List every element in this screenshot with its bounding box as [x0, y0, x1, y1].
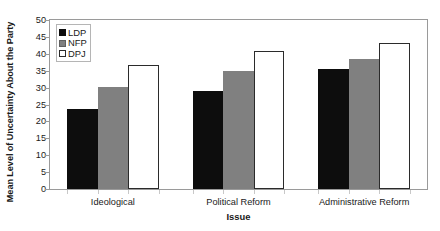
y-tick-label: 20	[20, 116, 46, 126]
legend-item-dpj: DPJ	[59, 49, 87, 59]
legend-item-ldp: LDP	[59, 28, 87, 38]
x-tick-mark	[193, 190, 194, 194]
x-tick-mark	[410, 190, 411, 194]
x-tick-mark	[159, 190, 160, 194]
y-tick-mark	[45, 121, 49, 122]
plot-area	[50, 20, 427, 189]
y-tick-label: 10	[20, 150, 46, 160]
legend-item-nfp: NFP	[59, 38, 87, 48]
x-tick-mark	[223, 190, 224, 194]
y-tick-mark	[45, 37, 49, 38]
bar-ldp-0	[67, 109, 98, 189]
y-tick-mark	[45, 20, 49, 21]
x-category-label: Administrative Reform	[274, 197, 440, 208]
y-axis-title: Mean Level of Uncertainty About the Part…	[3, 14, 17, 210]
y-tick-mark	[45, 138, 49, 139]
y-axis-tick-labels: 05101520253035404550	[20, 12, 46, 194]
y-tick-label: 0	[20, 184, 46, 194]
legend-label: NFP	[68, 38, 87, 48]
legend-swatch-icon	[59, 29, 66, 36]
bar-ldp-1	[193, 91, 224, 189]
x-axis-title: Issue	[49, 211, 428, 222]
x-tick-mark	[128, 190, 129, 194]
y-tick-label: 45	[20, 32, 46, 42]
y-tick-mark	[45, 172, 49, 173]
y-tick-mark	[45, 155, 49, 156]
x-tick-mark	[284, 190, 285, 194]
y-tick-mark	[45, 71, 49, 72]
y-tick-mark	[45, 189, 49, 190]
legend-swatch-icon	[59, 50, 66, 57]
y-tick-mark	[45, 105, 49, 106]
bar-nfp-0	[98, 87, 129, 189]
bar-dpj-1	[254, 51, 285, 189]
y-tick-label: 30	[20, 83, 46, 93]
legend-label: LDP	[68, 28, 86, 38]
bar-ldp-2	[318, 69, 349, 189]
y-tick-label: 35	[20, 66, 46, 76]
bar-nfp-1	[223, 71, 254, 189]
y-tick-label: 25	[20, 100, 46, 110]
bar-nfp-2	[349, 59, 380, 189]
x-tick-mark	[67, 190, 68, 194]
x-tick-mark	[98, 190, 99, 194]
bar-dpj-0	[128, 65, 159, 189]
bar-dpj-2	[379, 43, 410, 189]
y-tick-label: 50	[20, 15, 46, 25]
legend-label: DPJ	[68, 49, 86, 59]
x-tick-mark	[379, 190, 380, 194]
legend-swatch-icon	[59, 40, 66, 47]
x-tick-mark	[318, 190, 319, 194]
x-tick-mark	[349, 190, 350, 194]
y-tick-label: 15	[20, 133, 46, 143]
y-tick-label: 5	[20, 167, 46, 177]
y-tick-label: 40	[20, 49, 46, 59]
y-tick-mark	[45, 54, 49, 55]
bar-chart: Mean Level of Uncertainty About the Part…	[0, 0, 440, 231]
chart-legend: LDPNFPDPJ	[56, 24, 91, 62]
x-tick-mark	[254, 190, 255, 194]
y-tick-mark	[45, 88, 49, 89]
